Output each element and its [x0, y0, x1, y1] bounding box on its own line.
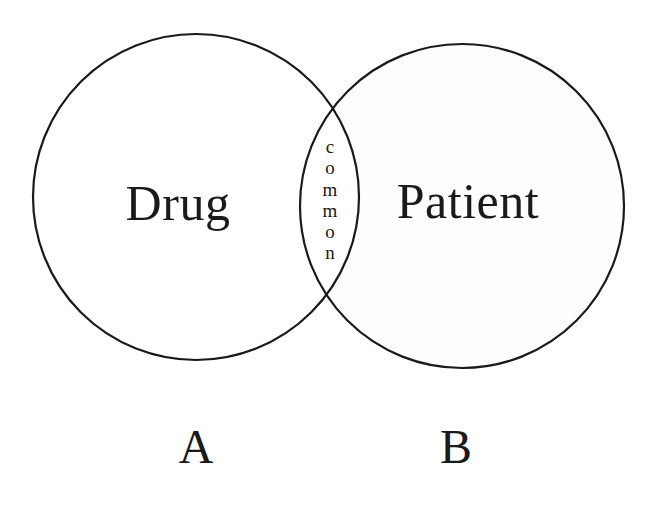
circle-a-fill — [33, 34, 359, 360]
venn-diagram-figure: Drug Patient c o m m o n A B — [0, 0, 651, 513]
venn-circles-svg — [0, 0, 651, 513]
